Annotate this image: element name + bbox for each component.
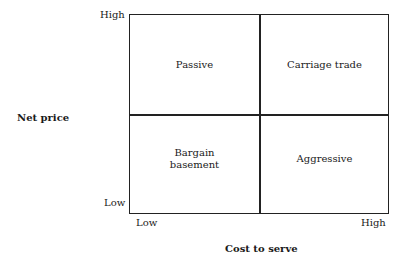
- quadrant-top-right: Carriage trade: [260, 15, 389, 114]
- quadrant-label-bargain-basement: Bargain basement: [170, 147, 219, 171]
- quadrant-label-passive: Passive: [176, 59, 213, 71]
- quadrant-label-carriage-trade: Carriage trade: [287, 59, 362, 71]
- x-axis-low-label: Low: [136, 217, 157, 229]
- quadrant-label-aggressive: Aggressive: [297, 153, 353, 165]
- quadrant-bottom-left: Bargain basement: [130, 115, 259, 214]
- quadrant-bottom-right: Aggressive: [260, 115, 389, 214]
- y-axis-title: Net price: [17, 112, 69, 124]
- y-axis-high-label: High: [100, 9, 125, 21]
- quadrant-matrix: Passive Carriage trade Bargain basement …: [129, 14, 389, 214]
- x-axis-high-label: High: [361, 217, 386, 229]
- x-axis-title: Cost to serve: [225, 243, 298, 255]
- quadrant-top-left: Passive: [130, 15, 259, 114]
- y-axis-low-label: Low: [104, 197, 125, 209]
